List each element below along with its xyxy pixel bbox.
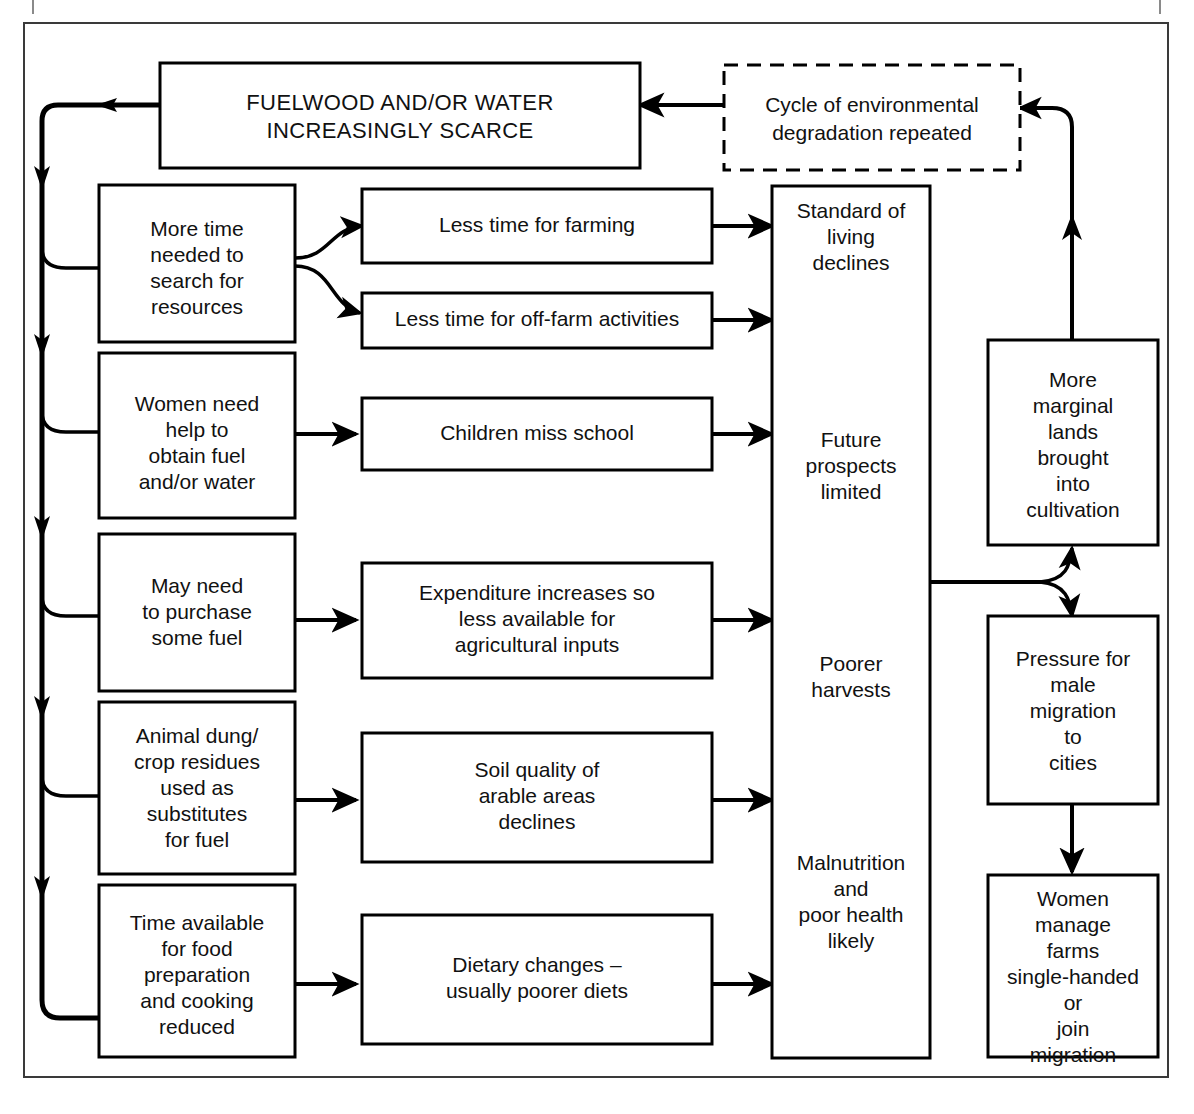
outcome-standard-l0: Standard of xyxy=(797,199,906,222)
node-animal-dung[interactable]: Animal dung/ crop residues used as subst… xyxy=(99,702,295,874)
outcome-malnutrition-l1: and xyxy=(833,877,868,900)
node-animal-dung-l0: Animal dung/ xyxy=(136,724,259,747)
node-less-time-farming[interactable]: Less time for farming xyxy=(362,189,712,263)
node-women-manage-farms[interactable]: Women manage farms single-handed or join… xyxy=(988,875,1158,1066)
outcome-poorer-l0: Poorer xyxy=(819,652,882,675)
node-fuelwood-scarce-line2: INCREASINGLY SCARCE xyxy=(266,118,533,143)
node-more-time-l1: needed to xyxy=(150,243,243,266)
edge-outcomes-to-marginal-lands xyxy=(1040,548,1072,582)
node-expenditure-l1: less available for xyxy=(459,607,615,630)
outcome-malnutrition-l0: Malnutrition xyxy=(797,851,906,874)
diagram-page: FUELWOOD AND/OR WATER INCREASINGLY SCARC… xyxy=(0,0,1194,1114)
node-cycle-line1: Cycle of environmental xyxy=(765,93,979,116)
node-women-help-l0: Women need xyxy=(135,392,260,415)
node-more-time-l3: resources xyxy=(151,295,243,318)
node-male-migration[interactable]: Pressure for male migration to cities xyxy=(988,616,1158,804)
node-expenditure-increases[interactable]: Expenditure increases so less available … xyxy=(362,563,712,678)
edge-outcomes-to-male-migration xyxy=(1040,582,1072,616)
node-migration-l1: male xyxy=(1050,673,1096,696)
node-marginal-l4: into xyxy=(1056,472,1090,495)
node-soil-quality-l2: declines xyxy=(498,810,575,833)
node-children-school-l0: Children miss school xyxy=(440,421,634,444)
outcome-future-l0: Future xyxy=(821,428,882,451)
node-may-purchase-l0: May need xyxy=(151,574,243,597)
node-migration-l0: Pressure for xyxy=(1016,647,1130,670)
node-marginal-l0: More xyxy=(1049,368,1097,391)
outcome-poorer-l1: harvests xyxy=(811,678,890,701)
node-cycle-of-degradation[interactable]: Cycle of environmental degradation repea… xyxy=(724,65,1020,170)
edge-marginal-lands-to-cycle xyxy=(1020,108,1072,340)
node-women-help-l1: help to xyxy=(165,418,228,441)
node-time-food-l2: preparation xyxy=(144,963,250,986)
node-more-time-l0: More time xyxy=(150,217,243,240)
node-women-farms-l6: migration xyxy=(1030,1043,1116,1066)
node-outcomes-column[interactable]: Standard of living declines Future prosp… xyxy=(772,186,930,1058)
outcome-malnutrition-l2: poor health xyxy=(798,903,903,926)
node-time-food-l3: and cooking xyxy=(140,989,253,1012)
node-dietary-changes[interactable]: Dietary changes – usually poorer diets xyxy=(362,915,712,1044)
node-women-farms-l3: single-handed xyxy=(1007,965,1139,988)
node-women-farms-l4: or xyxy=(1064,991,1083,1014)
node-may-purchase-l2: some fuel xyxy=(151,626,242,649)
node-time-food-l1: for food xyxy=(161,937,232,960)
node-marginal-lands[interactable]: More marginal lands brought into cultiva… xyxy=(988,340,1158,545)
node-soil-quality-l0: Soil quality of xyxy=(475,758,600,781)
node-women-farms-l5: join xyxy=(1056,1017,1090,1040)
node-migration-l2: migration xyxy=(1030,699,1116,722)
outcome-standard-l1: living xyxy=(827,225,875,248)
node-migration-l3: to xyxy=(1064,725,1082,748)
flowchart-canvas: FUELWOOD AND/OR WATER INCREASINGLY SCARC… xyxy=(0,0,1194,1114)
edge-more-time-to-less-offfarm xyxy=(295,266,360,313)
node-women-need-help[interactable]: Women need help to obtain fuel and/or wa… xyxy=(99,353,295,518)
node-marginal-l3: brought xyxy=(1037,446,1108,469)
node-dietary-l1: usually poorer diets xyxy=(446,979,628,1002)
node-expenditure-l2: agricultural inputs xyxy=(455,633,620,656)
node-time-for-food[interactable]: Time available for food preparation and … xyxy=(99,885,295,1057)
node-more-time[interactable]: More time needed to search for resources xyxy=(99,185,295,342)
outcome-future-l1: prospects xyxy=(805,454,896,477)
node-women-help-l3: and/or water xyxy=(139,470,256,493)
node-children-miss-school[interactable]: Children miss school xyxy=(362,398,712,470)
node-animal-dung-l3: substitutes xyxy=(147,802,247,825)
node-may-purchase-l1: to purchase xyxy=(142,600,252,623)
node-fuelwood-scarce-line1: FUELWOOD AND/OR WATER xyxy=(246,90,553,115)
node-animal-dung-l1: crop residues xyxy=(134,750,260,773)
node-women-farms-l1: manage xyxy=(1035,913,1111,936)
node-expenditure-l0: Expenditure increases so xyxy=(419,581,655,604)
node-women-farms-l2: farms xyxy=(1047,939,1100,962)
node-less-time-offfarm[interactable]: Less time for off-farm activities xyxy=(362,293,712,348)
node-less-farming-l0: Less time for farming xyxy=(439,213,635,236)
node-dietary-l0: Dietary changes – xyxy=(452,953,622,976)
node-soil-quality-l1: arable areas xyxy=(479,784,596,807)
node-may-purchase-fuel[interactable]: May need to purchase some fuel xyxy=(99,534,295,691)
node-time-food-l0: Time available xyxy=(130,911,265,934)
node-women-help-l2: obtain fuel xyxy=(149,444,246,467)
node-marginal-l1: marginal xyxy=(1033,394,1114,417)
node-time-food-l4: reduced xyxy=(159,1015,235,1038)
node-animal-dung-l4: for fuel xyxy=(165,828,229,851)
node-less-offfarm-l0: Less time for off-farm activities xyxy=(395,307,679,330)
node-more-time-l2: search for xyxy=(150,269,243,292)
node-marginal-l5: cultivation xyxy=(1026,498,1119,521)
node-women-farms-l0: Women xyxy=(1037,887,1109,910)
outcome-future-l2: limited xyxy=(821,480,882,503)
node-migration-l4: cities xyxy=(1049,751,1097,774)
edge-more-time-to-less-farming xyxy=(295,226,362,258)
outcome-malnutrition-l3: likely xyxy=(828,929,875,952)
outcome-standard-l2: declines xyxy=(812,251,889,274)
node-soil-quality[interactable]: Soil quality of arable areas declines xyxy=(362,733,712,862)
node-marginal-l2: lands xyxy=(1048,420,1098,443)
node-animal-dung-l2: used as xyxy=(160,776,234,799)
node-cycle-line2: degradation repeated xyxy=(772,121,972,144)
node-fuelwood-scarce[interactable]: FUELWOOD AND/OR WATER INCREASINGLY SCARC… xyxy=(160,63,640,168)
